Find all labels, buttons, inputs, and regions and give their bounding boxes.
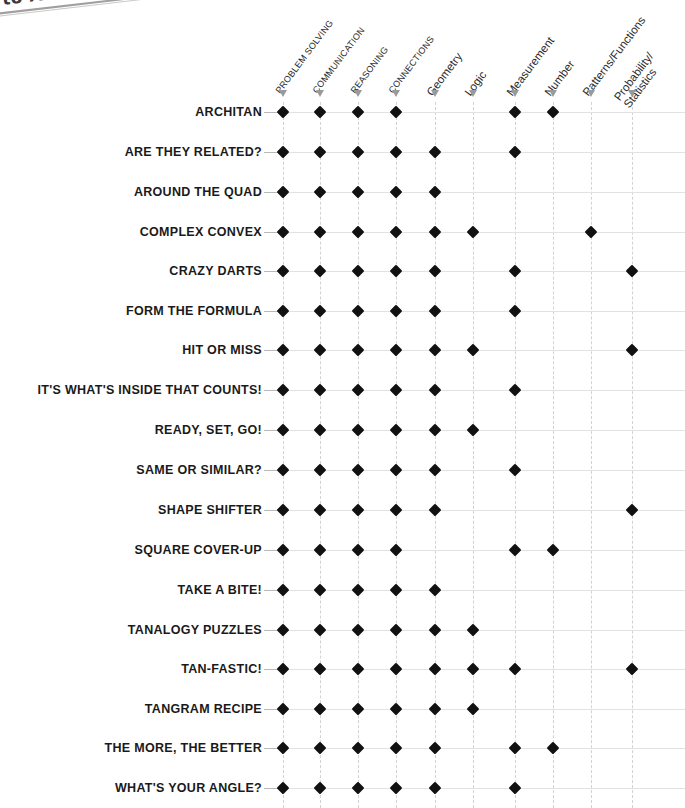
matrix-marker[interactable]	[352, 504, 365, 517]
row-label[interactable]: SAME OR SIMILAR?	[136, 463, 262, 477]
matrix-marker[interactable]	[277, 782, 290, 795]
matrix-marker[interactable]	[352, 663, 365, 676]
row-label[interactable]: ARE THEY RELATED?	[125, 145, 262, 159]
matrix-marker[interactable]	[352, 742, 365, 755]
column-header-8[interactable]: Number	[542, 58, 576, 98]
matrix-marker[interactable]	[429, 663, 442, 676]
matrix-marker[interactable]	[314, 265, 327, 278]
matrix-marker[interactable]	[547, 544, 560, 557]
matrix-marker[interactable]	[352, 703, 365, 716]
row-label[interactable]: IT'S WHAT'S INSIDE THAT COUNTS!	[38, 383, 263, 397]
matrix-marker[interactable]	[314, 146, 327, 159]
matrix-marker[interactable]	[429, 504, 442, 517]
matrix-marker[interactable]	[467, 624, 480, 637]
matrix-marker[interactable]	[390, 186, 403, 199]
row-label[interactable]: WHAT'S YOUR ANGLE?	[115, 781, 262, 795]
matrix-marker[interactable]	[390, 742, 403, 755]
matrix-marker[interactable]	[277, 226, 290, 239]
matrix-marker[interactable]	[352, 624, 365, 637]
matrix-marker[interactable]	[429, 782, 442, 795]
matrix-marker[interactable]	[314, 742, 327, 755]
column-header-3[interactable]: REASONING	[349, 45, 390, 95]
matrix-marker[interactable]	[390, 504, 403, 517]
row-label[interactable]: TAKE A BITE!	[178, 583, 262, 597]
matrix-marker[interactable]	[314, 464, 327, 477]
matrix-marker[interactable]	[390, 384, 403, 397]
matrix-marker[interactable]	[277, 742, 290, 755]
matrix-marker[interactable]	[390, 663, 403, 676]
matrix-marker[interactable]	[509, 742, 522, 755]
matrix-marker[interactable]	[352, 464, 365, 477]
row-label[interactable]: TANGRAM RECIPE	[145, 702, 262, 716]
matrix-marker[interactable]	[314, 584, 327, 597]
matrix-marker[interactable]	[509, 305, 522, 318]
matrix-marker[interactable]	[509, 384, 522, 397]
matrix-marker[interactable]	[429, 703, 442, 716]
matrix-marker[interactable]	[429, 186, 442, 199]
matrix-marker[interactable]	[277, 544, 290, 557]
row-label[interactable]: ARCHITAN	[195, 105, 262, 119]
matrix-marker[interactable]	[429, 344, 442, 357]
matrix-marker[interactable]	[277, 265, 290, 278]
matrix-marker[interactable]	[314, 504, 327, 517]
matrix-marker[interactable]	[352, 305, 365, 318]
matrix-marker[interactable]	[509, 265, 522, 278]
row-label[interactable]: FORM THE FORMULA	[126, 304, 262, 318]
matrix-marker[interactable]	[429, 584, 442, 597]
matrix-marker[interactable]	[390, 624, 403, 637]
matrix-marker[interactable]	[277, 146, 290, 159]
matrix-marker[interactable]	[277, 344, 290, 357]
matrix-marker[interactable]	[547, 742, 560, 755]
matrix-marker[interactable]	[626, 504, 639, 517]
matrix-marker[interactable]	[352, 146, 365, 159]
row-label[interactable]: TANALOGY PUZZLES	[128, 623, 262, 637]
matrix-marker[interactable]	[509, 782, 522, 795]
matrix-marker[interactable]	[390, 703, 403, 716]
matrix-marker[interactable]	[352, 106, 365, 119]
matrix-marker[interactable]	[429, 624, 442, 637]
matrix-marker[interactable]	[352, 186, 365, 199]
row-label[interactable]: HIT OR MISS	[182, 343, 262, 357]
matrix-marker[interactable]	[509, 663, 522, 676]
matrix-marker[interactable]	[467, 226, 480, 239]
matrix-marker[interactable]	[390, 782, 403, 795]
matrix-marker[interactable]	[314, 344, 327, 357]
matrix-marker[interactable]	[429, 424, 442, 437]
matrix-marker[interactable]	[390, 544, 403, 557]
matrix-marker[interactable]	[352, 384, 365, 397]
matrix-marker[interactable]	[352, 424, 365, 437]
matrix-marker[interactable]	[390, 106, 403, 119]
row-label[interactable]: READY, SET, GO!	[155, 423, 262, 437]
matrix-marker[interactable]	[509, 464, 522, 477]
matrix-marker[interactable]	[352, 782, 365, 795]
matrix-marker[interactable]	[509, 146, 522, 159]
matrix-marker[interactable]	[314, 624, 327, 637]
matrix-marker[interactable]	[277, 464, 290, 477]
matrix-marker[interactable]	[277, 424, 290, 437]
matrix-marker[interactable]	[390, 305, 403, 318]
row-label[interactable]: CRAZY DARTS	[169, 264, 262, 278]
matrix-marker[interactable]	[429, 384, 442, 397]
row-label[interactable]: SQUARE COVER-UP	[135, 543, 262, 557]
matrix-marker[interactable]	[509, 544, 522, 557]
matrix-marker[interactable]	[277, 186, 290, 199]
row-label[interactable]: AROUND THE QUAD	[134, 185, 262, 199]
matrix-marker[interactable]	[314, 384, 327, 397]
matrix-marker[interactable]	[314, 703, 327, 716]
matrix-marker[interactable]	[429, 742, 442, 755]
matrix-marker[interactable]	[547, 106, 560, 119]
matrix-marker[interactable]	[429, 265, 442, 278]
matrix-marker[interactable]	[352, 584, 365, 597]
matrix-marker[interactable]	[429, 305, 442, 318]
matrix-marker[interactable]	[314, 782, 327, 795]
row-label[interactable]: COMPLEX CONVEX	[140, 225, 262, 239]
matrix-marker[interactable]	[390, 464, 403, 477]
matrix-marker[interactable]	[314, 424, 327, 437]
matrix-marker[interactable]	[314, 663, 327, 676]
matrix-marker[interactable]	[314, 544, 327, 557]
matrix-marker[interactable]	[390, 584, 403, 597]
matrix-marker[interactable]	[277, 384, 290, 397]
matrix-marker[interactable]	[467, 344, 480, 357]
matrix-marker[interactable]	[429, 464, 442, 477]
matrix-marker[interactable]	[277, 305, 290, 318]
